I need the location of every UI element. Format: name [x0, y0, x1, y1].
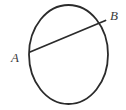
- geometry-figure: A B: [0, 0, 126, 110]
- chord-ab-line: [30, 21, 106, 53]
- point-label-b: B: [110, 9, 118, 22]
- point-label-a: A: [11, 51, 19, 64]
- circle-outline: [29, 5, 108, 104]
